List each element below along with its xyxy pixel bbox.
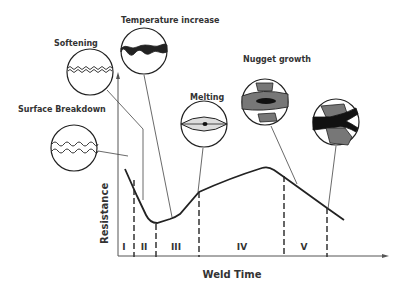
- temperature-increase-circle: [121, 28, 167, 74]
- electrode-top: [256, 83, 273, 91]
- leader-nugget-growth: [271, 126, 297, 184]
- electrode-bottom: [258, 113, 277, 122]
- leader-expulsion: [328, 146, 336, 209]
- resistance-diagram: Resistance Weld Time I II III IV V Surfa…: [0, 0, 408, 293]
- callout-label-softening: Softening: [54, 39, 98, 48]
- softening-circle: [67, 49, 113, 95]
- leader-melting: [198, 148, 203, 192]
- region-label: V: [301, 242, 308, 252]
- melting-circle: [181, 101, 227, 147]
- region-label: IV: [237, 242, 247, 252]
- nugget-seed: [203, 122, 208, 126]
- nugget-growth-circle: [242, 79, 288, 125]
- resistance-curve: [125, 167, 344, 223]
- leader-softening: [107, 90, 143, 200]
- region-label: I: [122, 242, 125, 252]
- region-label: II: [141, 242, 148, 252]
- surface-breakdown-circle: [51, 125, 98, 171]
- nugget: [256, 98, 276, 104]
- expulsion-circle: [313, 99, 359, 145]
- leader-surface-breakdown: [98, 151, 128, 156]
- y-axis-label: Resistance: [99, 183, 110, 244]
- callout-label-temperature-increase: Temperature increase: [121, 16, 220, 25]
- y-axis-arrow: [116, 72, 120, 79]
- leader-temperature-increase: [144, 75, 172, 217]
- callout-label-nugget-growth: Nugget growth: [243, 55, 311, 64]
- x-axis-label: Weld Time: [203, 269, 262, 280]
- region-label: III: [171, 242, 181, 252]
- callout-label-surface-breakdown: Surface Breakdown: [18, 105, 106, 114]
- x-axis-arrow: [382, 254, 389, 258]
